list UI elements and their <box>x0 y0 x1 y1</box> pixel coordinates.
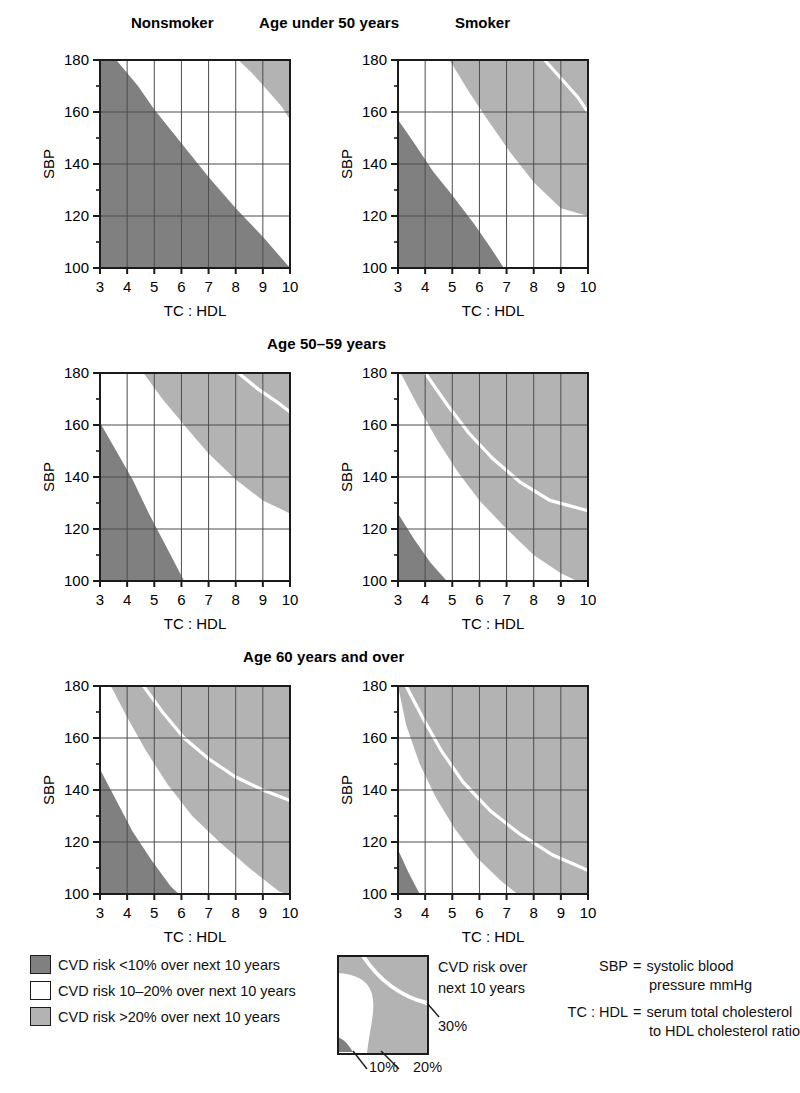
svg-text:4: 4 <box>123 904 131 921</box>
legend-swatch-moderate <box>30 981 51 1000</box>
svg-text:TC : HDL: TC : HDL <box>462 302 525 319</box>
detail-caption-line1: CVD risk over <box>438 959 527 975</box>
abbr-cont-tchdl: to HDL cholesterol ratio <box>644 1022 800 1041</box>
svg-text:120: 120 <box>64 207 89 224</box>
abbreviation-sbp-cont: pressure mmHg <box>566 976 800 995</box>
svg-text:7: 7 <box>204 904 212 921</box>
svg-text:3: 3 <box>96 591 104 608</box>
svg-text:160: 160 <box>64 729 89 746</box>
svg-text:180: 180 <box>64 51 89 68</box>
svg-text:10: 10 <box>580 591 597 608</box>
svg-text:6: 6 <box>177 591 185 608</box>
svg-text:9: 9 <box>259 278 267 295</box>
abbreviations-block: SBP = systolic blood pressure mmHg TC : … <box>566 957 800 1041</box>
svg-text:160: 160 <box>362 416 387 433</box>
svg-text:10: 10 <box>282 904 299 921</box>
legend-swatch-low <box>30 955 51 974</box>
abbr-key-sbp: SBP <box>566 957 628 976</box>
svg-text:8: 8 <box>232 904 240 921</box>
svg-text:100: 100 <box>362 259 387 276</box>
svg-text:10: 10 <box>580 904 597 921</box>
svg-text:100: 100 <box>64 885 89 902</box>
svg-text:TC : HDL: TC : HDL <box>462 615 525 632</box>
svg-text:140: 140 <box>362 155 387 172</box>
svg-text:100: 100 <box>64 259 89 276</box>
svg-text:10: 10 <box>282 591 299 608</box>
svg-text:TC : HDL: TC : HDL <box>164 928 227 945</box>
svg-text:100: 100 <box>64 572 89 589</box>
svg-text:6: 6 <box>475 904 483 921</box>
svg-text:3: 3 <box>96 904 104 921</box>
svg-text:160: 160 <box>362 729 387 746</box>
svg-text:9: 9 <box>259 591 267 608</box>
abbr-spacer-sbp <box>566 976 644 995</box>
svg-text:5: 5 <box>150 904 158 921</box>
svg-text:TC : HDL: TC : HDL <box>462 928 525 945</box>
abbr-eq-tchdl: = <box>628 1003 641 1022</box>
svg-text:SBP: SBP <box>40 462 57 492</box>
svg-text:180: 180 <box>64 364 89 381</box>
svg-text:9: 9 <box>557 278 565 295</box>
svg-text:140: 140 <box>64 468 89 485</box>
panel-under50-smoker: 100120140160180345678910TC : HDLSBP <box>338 48 613 340</box>
svg-text:160: 160 <box>64 416 89 433</box>
svg-text:6: 6 <box>177 278 185 295</box>
svg-text:120: 120 <box>64 520 89 537</box>
svg-text:10: 10 <box>580 278 597 295</box>
svg-text:140: 140 <box>64 781 89 798</box>
svg-text:5: 5 <box>448 591 456 608</box>
svg-text:5: 5 <box>448 904 456 921</box>
svg-text:6: 6 <box>475 591 483 608</box>
detail-label-20: 20% <box>413 1059 442 1075</box>
abbreviation-tchdl-cont: to HDL cholesterol ratio <box>566 1022 800 1041</box>
svg-text:8: 8 <box>530 904 538 921</box>
svg-text:9: 9 <box>557 591 565 608</box>
abbr-value-tchdl: serum total cholesterol <box>641 1003 792 1022</box>
column-label-smoker: Smoker <box>455 14 510 31</box>
legend-label-moderate: CVD risk 10–20% over next 10 years <box>58 983 296 999</box>
panel-50to59-smoker: 100120140160180345678910TC : HDLSBP <box>338 361 613 653</box>
detail-label-10: 10% <box>369 1059 398 1075</box>
panel-60over-nonsmoker: 100120140160180345678910TC : HDLSBP <box>40 674 315 966</box>
detail-caption-line2: next 10 years <box>438 980 525 996</box>
row-title-age-under-50: Age under 50 years <box>259 14 399 31</box>
detail-label-30: 30% <box>438 1018 467 1034</box>
svg-text:140: 140 <box>362 468 387 485</box>
svg-text:4: 4 <box>421 591 429 608</box>
svg-text:SBP: SBP <box>338 462 355 492</box>
svg-text:5: 5 <box>150 278 158 295</box>
svg-text:7: 7 <box>502 591 510 608</box>
panel-under50-nonsmoker: 100120140160180345678910TC : HDLSBP <box>40 48 315 340</box>
svg-text:4: 4 <box>421 904 429 921</box>
svg-text:120: 120 <box>64 833 89 850</box>
abbreviation-tchdl: TC : HDL = serum total cholesterol <box>566 1003 800 1022</box>
abbr-key-tchdl: TC : HDL <box>566 1003 628 1022</box>
svg-text:4: 4 <box>123 591 131 608</box>
svg-text:7: 7 <box>204 278 212 295</box>
svg-text:6: 6 <box>177 904 185 921</box>
abbr-value-sbp: systolic blood <box>641 957 733 976</box>
svg-text:7: 7 <box>204 591 212 608</box>
svg-text:8: 8 <box>232 591 240 608</box>
abbr-cont-sbp: pressure mmHg <box>644 976 752 995</box>
svg-text:120: 120 <box>362 207 387 224</box>
legend-item-high: CVD risk >20% over next 10 years <box>30 1007 296 1026</box>
svg-text:3: 3 <box>394 591 402 608</box>
panel-60over-smoker: 100120140160180345678910TC : HDLSBP <box>338 674 613 966</box>
svg-text:180: 180 <box>64 677 89 694</box>
svg-text:120: 120 <box>362 833 387 850</box>
svg-text:7: 7 <box>502 904 510 921</box>
legend-item-low: CVD risk <10% over next 10 years <box>30 955 296 974</box>
svg-text:180: 180 <box>362 677 387 694</box>
svg-text:5: 5 <box>150 591 158 608</box>
svg-text:9: 9 <box>557 904 565 921</box>
svg-text:10: 10 <box>282 278 299 295</box>
svg-text:7: 7 <box>502 278 510 295</box>
svg-text:9: 9 <box>259 904 267 921</box>
svg-text:TC : HDL: TC : HDL <box>164 615 227 632</box>
abbr-spacer-tchdl <box>566 1022 644 1041</box>
svg-text:TC : HDL: TC : HDL <box>164 302 227 319</box>
svg-text:4: 4 <box>123 278 131 295</box>
svg-text:3: 3 <box>96 278 104 295</box>
